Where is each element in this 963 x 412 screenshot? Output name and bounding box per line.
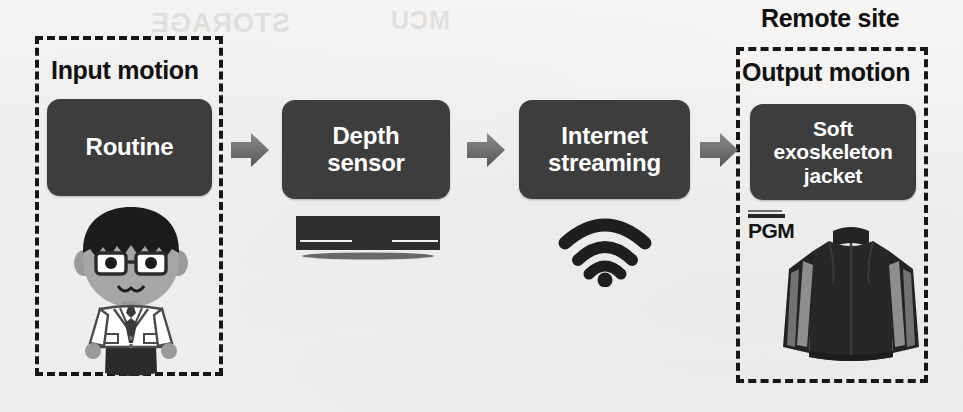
wifi-icon (555, 215, 655, 287)
stage-box-depth-sensor[interactable]: Depthsensor (282, 100, 450, 199)
pgm-rule-thin (748, 210, 782, 212)
person-illustration (62, 205, 200, 377)
group-caption-input-motion: Input motion (51, 56, 199, 85)
diagram-canvas: STORAGE MCU Input motion Routine (0, 0, 963, 412)
stage-box-routine[interactable]: Routine (47, 99, 212, 196)
stage-label-internet-streaming: Internetstreaming (542, 123, 667, 177)
group-caption-output-motion: Output motion (742, 58, 910, 87)
depth-sensor-illustration (292, 214, 444, 262)
group-caption-remote-site: Remote site (761, 4, 899, 33)
stage-label-routine: Routine (80, 134, 180, 161)
arrow-routine-to-depth (230, 131, 270, 169)
stage-box-soft-exoskeleton-jacket[interactable]: Softexoskeletonjacket (750, 104, 916, 200)
stage-box-internet-streaming[interactable]: Internetstreaming (519, 100, 690, 199)
jacket-illustration (777, 225, 925, 373)
arrow-streaming-to-jacket (699, 131, 739, 169)
stage-label-soft-exoskeleton-jacket: Softexoskeletonjacket (767, 117, 898, 188)
stage-label-depth-sensor: Depthsensor (321, 123, 411, 177)
arrow-depth-to-streaming (466, 131, 506, 169)
pgm-rule-thick (748, 214, 785, 218)
